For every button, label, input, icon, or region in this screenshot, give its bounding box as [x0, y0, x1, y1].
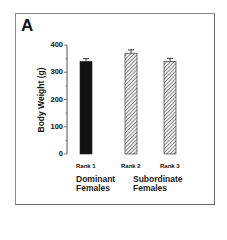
group-label-line2: Females — [76, 184, 115, 193]
group-label-subordinate: Subordinate Females — [133, 175, 183, 193]
group-label-dominant: Dominant Females — [76, 175, 115, 193]
bars — [80, 50, 176, 154]
group-label-line2: Females — [133, 184, 183, 193]
bar-rank-2 — [125, 53, 137, 154]
x-category-label: Rank 2 — [121, 163, 141, 169]
y-axis — [64, 45, 67, 154]
x-category-label: Rank 3 — [160, 163, 180, 169]
x-category-label: Rank 1 — [76, 163, 96, 169]
bar-rank-3 — [164, 61, 176, 154]
bar-rank-1 — [80, 61, 92, 154]
